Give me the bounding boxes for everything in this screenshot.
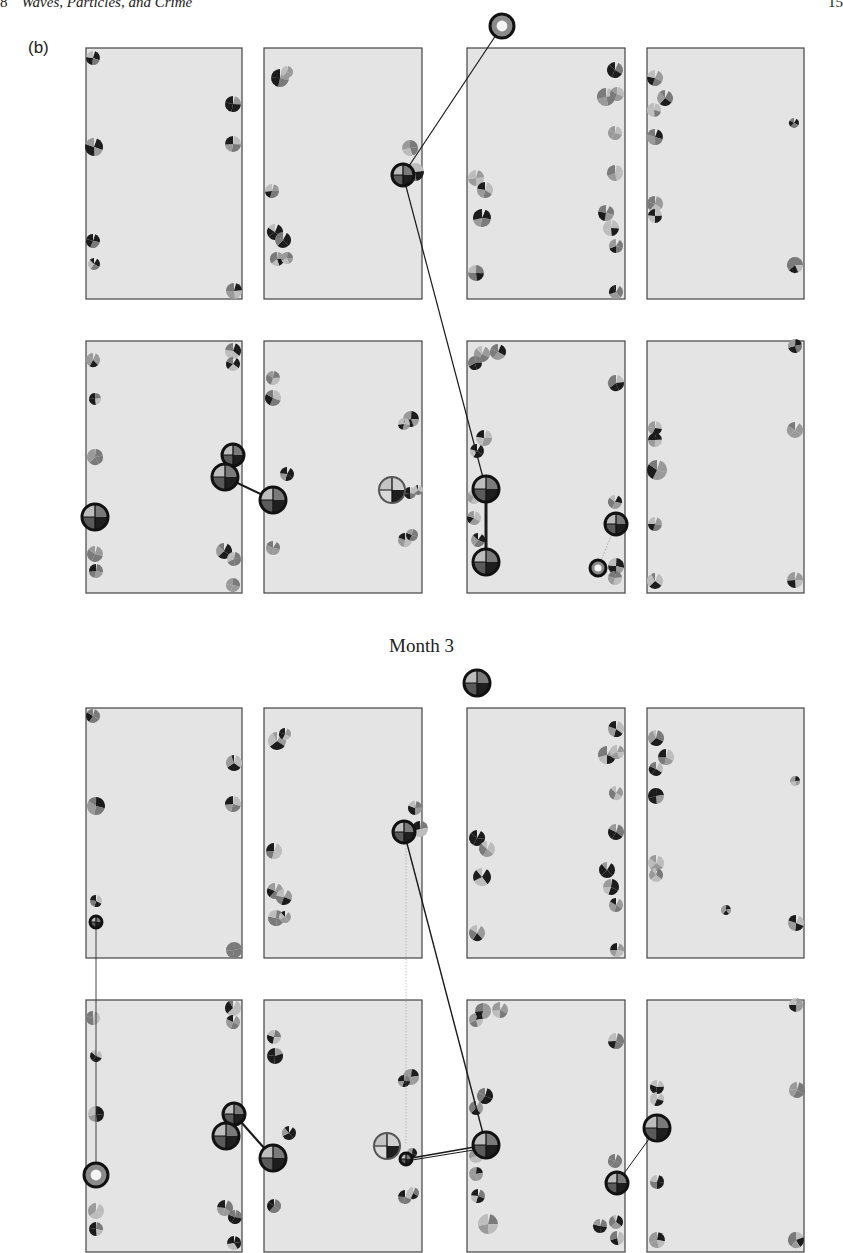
event-glyph bbox=[608, 126, 622, 140]
event-glyph bbox=[86, 51, 100, 65]
event-glyph bbox=[227, 1236, 241, 1250]
event-glyph bbox=[648, 421, 662, 435]
event-glyph bbox=[267, 1199, 281, 1213]
event-glyph bbox=[647, 573, 663, 589]
event-glyph bbox=[266, 371, 280, 385]
street-block bbox=[647, 341, 804, 593]
event-glyph bbox=[87, 449, 103, 465]
event-glyph bbox=[477, 182, 493, 198]
event-glyph bbox=[227, 552, 241, 566]
event-glyph bbox=[468, 265, 484, 281]
highlighted-event-glyph bbox=[90, 916, 102, 928]
event-glyph bbox=[649, 868, 663, 882]
event-glyph bbox=[226, 1015, 240, 1029]
street-block bbox=[264, 341, 422, 593]
event-glyph bbox=[86, 709, 100, 723]
event-glyph bbox=[266, 541, 280, 555]
panel-bottom bbox=[84, 670, 805, 1252]
event-glyph bbox=[471, 1189, 485, 1203]
event-glyph bbox=[88, 1203, 104, 1219]
street-block bbox=[86, 48, 242, 299]
event-glyph bbox=[607, 165, 623, 181]
event-glyph bbox=[89, 393, 101, 405]
event-glyph bbox=[610, 1231, 624, 1245]
event-glyph bbox=[788, 339, 802, 353]
highlighted-event-glyph bbox=[379, 477, 405, 503]
street-block bbox=[467, 708, 625, 958]
event-glyph bbox=[225, 796, 241, 812]
event-glyph bbox=[86, 1011, 100, 1025]
street-block bbox=[264, 1000, 422, 1252]
highlighted-event-glyph bbox=[605, 513, 627, 535]
event-glyph bbox=[398, 418, 410, 430]
event-glyph bbox=[407, 1187, 419, 1199]
event-glyph bbox=[87, 546, 103, 562]
event-glyph bbox=[790, 776, 800, 786]
highlighted-event-glyph bbox=[606, 1172, 628, 1194]
event-glyph bbox=[225, 96, 241, 112]
event-glyph bbox=[648, 433, 662, 447]
event-glyph bbox=[608, 495, 622, 509]
event-glyph bbox=[266, 843, 282, 859]
event-glyph bbox=[467, 511, 481, 525]
event-glyph bbox=[225, 136, 241, 152]
event-glyph bbox=[267, 1030, 281, 1044]
event-glyph bbox=[610, 745, 624, 759]
event-glyph bbox=[609, 1215, 623, 1229]
event-glyph bbox=[490, 344, 506, 360]
street-block-figure bbox=[0, 0, 843, 1253]
event-glyph bbox=[89, 564, 103, 578]
event-glyph bbox=[789, 998, 803, 1012]
highlighted-event-glyph bbox=[644, 1115, 670, 1141]
event-glyph bbox=[788, 1232, 804, 1248]
event-glyph bbox=[608, 721, 624, 737]
event-glyph bbox=[226, 357, 240, 371]
event-glyph bbox=[90, 895, 102, 907]
event-glyph bbox=[608, 571, 622, 585]
event-glyph bbox=[267, 1048, 283, 1064]
event-glyph bbox=[86, 353, 100, 367]
event-glyph bbox=[265, 390, 281, 406]
street-block bbox=[86, 708, 242, 958]
highlighted-event-glyph bbox=[260, 1145, 286, 1171]
street-block bbox=[467, 1000, 625, 1252]
highlighted-event-glyph bbox=[590, 560, 606, 576]
event-glyph bbox=[279, 911, 291, 923]
event-glyph bbox=[648, 517, 662, 531]
event-glyph bbox=[649, 1232, 665, 1248]
street-block bbox=[647, 708, 804, 958]
event-glyph bbox=[87, 797, 105, 815]
event-glyph bbox=[603, 879, 619, 895]
event-glyph bbox=[608, 1154, 622, 1168]
highlighted-event-glyph bbox=[473, 1132, 499, 1158]
event-glyph bbox=[228, 1210, 242, 1224]
event-glyph bbox=[608, 375, 624, 391]
street-block bbox=[647, 48, 804, 299]
event-glyph bbox=[408, 801, 422, 815]
event-glyph bbox=[469, 1013, 483, 1027]
highlighted-event-glyph bbox=[212, 464, 238, 490]
event-glyph bbox=[599, 862, 615, 878]
event-glyph bbox=[225, 343, 241, 359]
event-glyph bbox=[788, 915, 804, 931]
event-glyph bbox=[275, 232, 291, 248]
event-glyph bbox=[647, 129, 663, 145]
event-glyph bbox=[406, 529, 418, 541]
event-glyph bbox=[649, 762, 663, 776]
highlighted-event-glyph bbox=[473, 476, 499, 502]
event-glyph bbox=[610, 943, 624, 957]
highlighted-event-glyph bbox=[213, 1123, 239, 1149]
panel-top bbox=[82, 14, 804, 593]
event-glyph bbox=[609, 786, 623, 800]
highlighted-event-glyph bbox=[260, 487, 286, 513]
event-glyph bbox=[650, 1080, 664, 1094]
event-glyph bbox=[281, 66, 293, 78]
event-glyph bbox=[413, 485, 423, 495]
event-glyph bbox=[476, 430, 492, 446]
highlighted-event-glyph bbox=[464, 670, 490, 696]
event-glyph bbox=[281, 252, 293, 264]
event-glyph bbox=[226, 578, 240, 592]
highlighted-event-glyph bbox=[393, 821, 415, 843]
event-glyph bbox=[279, 728, 291, 740]
event-glyph bbox=[226, 755, 242, 771]
